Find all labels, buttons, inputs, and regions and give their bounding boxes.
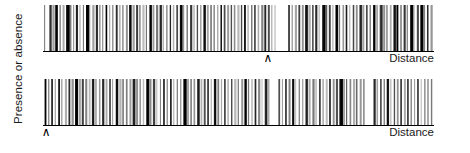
presence-absence-figure: Presence or absence ∧ Distance ∧ Distanc… <box>0 0 470 153</box>
barcode-canvas-bottom <box>43 79 434 125</box>
barcode-canvas-top <box>43 5 434 51</box>
x-axis-line-top <box>43 51 434 52</box>
x-axis-line-bottom <box>43 125 434 126</box>
x-axis-label-bottom: Distance <box>389 126 434 139</box>
distance-marker-top: ∧ <box>263 52 272 65</box>
y-axis-label: Presence or absence <box>9 0 27 124</box>
barcode-strip-top <box>43 5 434 51</box>
panel-bottom: ∧ Distance <box>43 79 434 125</box>
distance-marker-bottom: ∧ <box>42 126 51 139</box>
barcode-strip-bottom <box>43 79 434 125</box>
panel-top: ∧ Distance <box>43 5 434 51</box>
x-axis-label-top: Distance <box>389 52 434 65</box>
